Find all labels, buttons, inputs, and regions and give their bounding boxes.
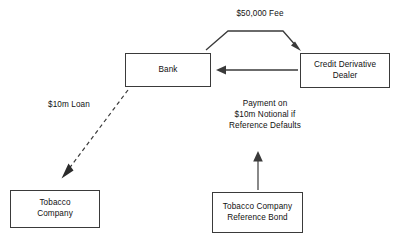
node-tobacco-label: Tobacco Company — [37, 198, 73, 219]
node-tobacco-label-line1: Tobacco — [39, 198, 70, 207]
node-bank-label: Bank — [158, 65, 177, 76]
node-refbond-label: Tobacco Company Reference Bond — [223, 202, 292, 223]
edge-label-loan: $10m Loan — [38, 100, 100, 111]
node-tobacco-company[interactable]: Tobacco Company — [10, 190, 100, 228]
node-tobacco-label-line2: Company — [37, 209, 73, 218]
edge-payment-arrow — [216, 66, 298, 75]
node-dealer-label: Credit Derivative Dealer — [314, 60, 376, 81]
node-refbond-label-line2: Reference Bond — [227, 213, 288, 222]
node-dealer-label-line1: Credit Derivative — [314, 60, 376, 69]
node-credit-derivative-dealer[interactable]: Credit Derivative Dealer — [300, 53, 390, 88]
edge-reference-arrow — [253, 151, 263, 190]
edge-label-payment-line2: $10m Notional if — [235, 110, 296, 119]
edge-label-payment-line1: Payment on — [243, 99, 288, 108]
edge-label-fee: $50,000 Fee — [217, 9, 303, 20]
node-refbond-label-line1: Tobacco Company — [223, 202, 292, 211]
diagram-canvas: Bank Credit Derivative Dealer Tobacco Co… — [0, 0, 397, 248]
edge-fee-arrow — [206, 31, 301, 51]
edge-label-payment: Payment on $10m Notional if Reference De… — [203, 99, 327, 131]
node-bank[interactable]: Bank — [125, 53, 211, 87]
node-dealer-label-line2: Dealer — [333, 71, 358, 80]
node-tobacco-company-reference-bond[interactable]: Tobacco Company Reference Bond — [212, 192, 303, 233]
edge-label-payment-line3: Reference Defaults — [229, 121, 301, 130]
